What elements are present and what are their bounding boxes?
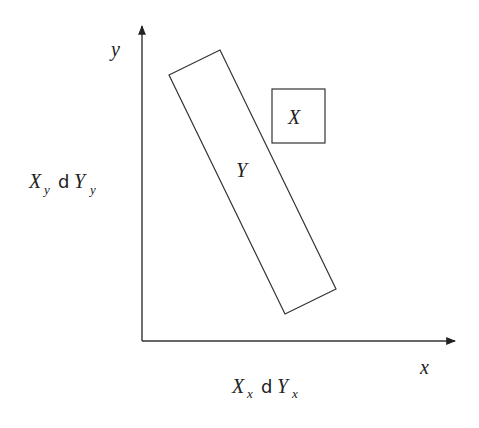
annotation-h-sub2: x — [291, 386, 298, 401]
annotation-v-sub1: y — [42, 182, 50, 197]
y-axis-label: y — [109, 38, 120, 61]
horizontal-projection-annotation: X x d Y x — [231, 375, 298, 401]
annotation-v-op: d — [58, 171, 69, 192]
annotation-h-op: d — [261, 376, 272, 397]
x-axis-label: x — [419, 356, 429, 378]
annotation-v-base1: X — [28, 170, 42, 192]
set-y-label: Y — [236, 159, 249, 181]
diagram-canvas: y x Y X X y d Y y X x d Y x — [0, 0, 479, 428]
annotation-v-sub2: y — [88, 182, 96, 197]
annotation-v-base2: Y — [74, 170, 87, 192]
set-x-label: X — [287, 106, 301, 128]
annotation-h-base2: Y — [277, 375, 290, 397]
vertical-projection-annotation: X y d Y y — [28, 170, 96, 197]
annotation-h-sub1: x — [246, 386, 253, 401]
annotation-h-base1: X — [231, 375, 245, 397]
